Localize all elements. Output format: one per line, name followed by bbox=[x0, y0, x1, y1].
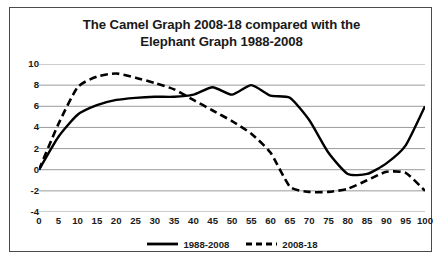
y-axis-tick-label: 10 bbox=[17, 59, 39, 69]
chart-container: The Camel Graph 2008-18 compared with th… bbox=[9, 7, 432, 252]
y-axis-tick-label: 4 bbox=[17, 122, 39, 132]
plot-svg bbox=[39, 64, 425, 212]
legend-entry[interactable]: 2008-18 bbox=[245, 239, 317, 250]
x-axis: 0510152025303540455055606570758085909510… bbox=[39, 215, 425, 229]
y-axis-tick-label: -2 bbox=[17, 186, 39, 196]
series-line-1988-2008 bbox=[39, 85, 425, 175]
chart-title-line-1: The Camel Graph 2008-18 compared with th… bbox=[24, 16, 419, 33]
legend-label: 2008-18 bbox=[282, 239, 317, 250]
y-axis-tick-label: 6 bbox=[17, 101, 39, 111]
chart-title-line-2: Elephant Graph 1988-2008 bbox=[24, 33, 419, 50]
y-axis-tick-label: 2 bbox=[17, 144, 39, 154]
chart-legend: 1988-20082008-18 bbox=[39, 236, 425, 252]
legend-entry[interactable]: 1988-2008 bbox=[146, 239, 229, 250]
chart-title: The Camel Graph 2008-18 compared with th… bbox=[24, 16, 419, 50]
x-axis-tick-label: 100 bbox=[412, 215, 438, 226]
gridlines bbox=[39, 64, 425, 212]
bottom-caption bbox=[10, 270, 440, 277]
legend-label: 1988-2008 bbox=[183, 239, 229, 250]
y-axis-tick-label: 0 bbox=[17, 165, 39, 175]
y-axis: 1086420-2-4 bbox=[19, 64, 39, 212]
legend-dashed-line-icon bbox=[245, 239, 278, 249]
legend-solid-line-icon bbox=[146, 239, 179, 249]
series-lines bbox=[39, 74, 425, 193]
plot-area bbox=[39, 64, 425, 212]
y-axis-tick-label: 8 bbox=[17, 80, 39, 90]
